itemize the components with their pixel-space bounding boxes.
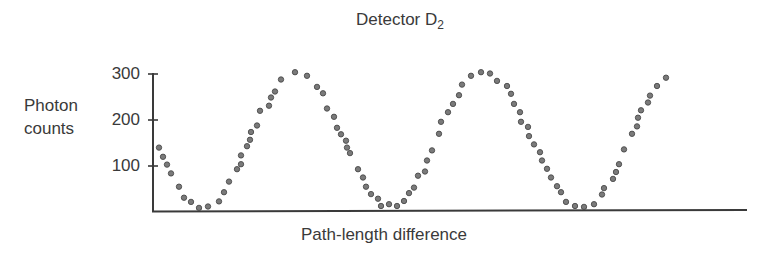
- data-point: [654, 83, 659, 88]
- data-point: [334, 125, 339, 130]
- data-point: [188, 199, 193, 204]
- data-point: [494, 78, 499, 83]
- data-point: [216, 199, 221, 204]
- data-point: [429, 148, 434, 153]
- data-point: [424, 158, 429, 163]
- data-point: [360, 175, 365, 180]
- data-point: [338, 132, 343, 137]
- data-point: [613, 169, 618, 174]
- data-point: [599, 192, 604, 197]
- data-point: [525, 124, 530, 129]
- data-point: [537, 150, 542, 155]
- data-point: [487, 71, 492, 76]
- data-point: [156, 145, 161, 150]
- data-point: [268, 95, 273, 100]
- data-point: [415, 173, 420, 178]
- data-point: [638, 108, 643, 113]
- data-point: [581, 204, 586, 209]
- data-point: [554, 184, 559, 189]
- data-point: [176, 184, 181, 189]
- data-point: [257, 108, 262, 113]
- data-point: [234, 167, 239, 172]
- data-point: [344, 145, 349, 150]
- data-point: [406, 190, 411, 195]
- data-point: [205, 204, 210, 209]
- data-point: [663, 75, 668, 80]
- data-point: [378, 203, 383, 208]
- data-point: [292, 70, 297, 75]
- data-point: [368, 191, 373, 196]
- data-point: [518, 119, 523, 124]
- data-point: [468, 73, 473, 78]
- data-point: [591, 202, 596, 207]
- data-point: [394, 203, 399, 208]
- data-point: [278, 77, 283, 82]
- data-point: [363, 184, 368, 189]
- data-point: [401, 198, 406, 203]
- data-point: [244, 144, 249, 149]
- data-point: [347, 150, 352, 155]
- data-point: [548, 175, 553, 180]
- data-point: [629, 131, 634, 136]
- data-point: [616, 162, 621, 167]
- data-point: [221, 190, 226, 195]
- data-point: [320, 91, 325, 96]
- data-point: [621, 147, 626, 152]
- data-point: [375, 196, 380, 201]
- data-point: [266, 103, 271, 108]
- data-point: [558, 190, 563, 195]
- data-point: [478, 70, 483, 75]
- data-point: [181, 195, 186, 200]
- data-point: [196, 205, 201, 210]
- axes: [148, 73, 747, 212]
- data-point: [164, 162, 169, 167]
- data-point: [422, 169, 427, 174]
- data-point: [544, 166, 549, 171]
- data-point: [304, 73, 309, 78]
- data-point: [511, 101, 516, 106]
- data-point: [238, 153, 243, 158]
- data-point: [436, 131, 441, 136]
- data-point: [445, 110, 450, 115]
- data-point: [238, 162, 243, 167]
- data-point: [411, 185, 416, 190]
- data-point: [247, 137, 252, 142]
- data-point: [645, 100, 650, 105]
- data-point: [314, 84, 319, 89]
- data-point: [526, 133, 531, 138]
- data-point: [386, 202, 391, 207]
- data-point: [572, 203, 577, 208]
- data-point: [634, 124, 639, 129]
- data-point: [517, 110, 522, 115]
- x-axis-line: [152, 210, 747, 212]
- data-point: [504, 83, 509, 88]
- data-point: [459, 82, 464, 87]
- data-points: [156, 70, 668, 211]
- data-point: [438, 119, 443, 124]
- data-point: [456, 93, 461, 98]
- data-point: [331, 114, 336, 119]
- data-point: [610, 176, 615, 181]
- data-point: [355, 167, 360, 172]
- x-axis-label: Path-length difference: [301, 225, 467, 245]
- data-point: [343, 138, 348, 143]
- data-point: [160, 154, 165, 159]
- data-point: [324, 106, 329, 111]
- data-point: [563, 199, 568, 204]
- data-point: [508, 91, 513, 96]
- data-point: [635, 115, 640, 120]
- data-point: [601, 185, 606, 190]
- data-point: [450, 101, 455, 106]
- data-point: [226, 179, 231, 184]
- interference-chart: Detector D2 Photon counts 300 200 100 Pa…: [0, 0, 772, 258]
- plot-area: [0, 0, 772, 258]
- data-point: [272, 89, 277, 94]
- data-point: [539, 158, 544, 163]
- data-point: [531, 142, 536, 147]
- data-point: [248, 129, 253, 134]
- data-point: [647, 93, 652, 98]
- data-point: [254, 123, 259, 128]
- data-point: [168, 171, 173, 176]
